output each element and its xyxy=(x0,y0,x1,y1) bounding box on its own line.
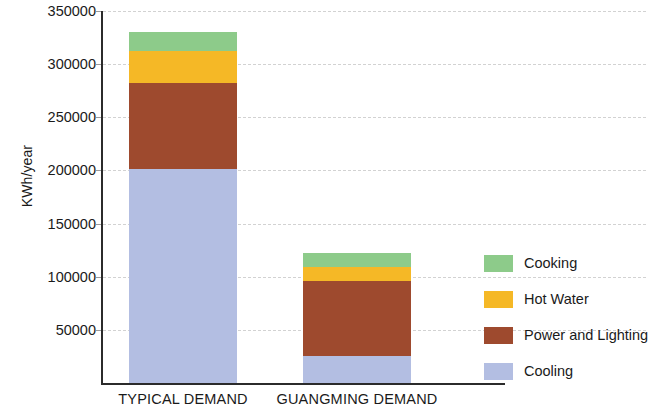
y-axis-tick-label: 50000 xyxy=(10,322,96,338)
x-axis-tick-label: TYPICAL DEMAND xyxy=(83,391,283,407)
y-axis-tick-mark xyxy=(96,170,101,171)
bar-segment[interactable] xyxy=(129,32,237,51)
legend-label: Cooking xyxy=(524,255,577,271)
legend-swatch-icon xyxy=(484,327,513,344)
legend-swatch-icon xyxy=(484,291,513,308)
legend-item[interactable]: Power and Lighting xyxy=(484,320,646,350)
legend-swatch-icon xyxy=(484,363,513,380)
legend-swatch-icon xyxy=(484,255,513,272)
legend-label: Power and Lighting xyxy=(524,327,648,343)
y-axis-tick-label: 300000 xyxy=(10,56,96,72)
x-axis-tick-label: GUANGMING DEMAND xyxy=(257,391,457,407)
legend-item[interactable]: Cooling xyxy=(484,356,646,386)
y-axis-tick-mark xyxy=(96,277,101,278)
bar-segment[interactable] xyxy=(303,253,411,267)
bar-segment[interactable] xyxy=(129,51,237,83)
bar-group[interactable] xyxy=(129,32,237,383)
y-axis-tick-mark xyxy=(96,224,101,225)
legend-label: Hot Water xyxy=(524,291,589,307)
legend-item[interactable]: Cooking xyxy=(484,248,646,278)
y-axis-tick-mark xyxy=(96,330,101,331)
y-axis-tick-label: 350000 xyxy=(10,3,96,19)
y-axis-tick-label: 250000 xyxy=(10,109,96,125)
chart-legend: CookingHot WaterPower and LightingCoolin… xyxy=(484,248,646,392)
y-axis-tick-mark xyxy=(96,117,101,118)
y-axis-tick-labels: 3500003000002500002000001500001000005000… xyxy=(8,11,96,385)
legend-item[interactable]: Hot Water xyxy=(484,284,646,314)
y-axis-tick-mark xyxy=(96,11,101,12)
gridline xyxy=(103,11,646,12)
bar-segment[interactable] xyxy=(303,281,411,356)
bar-segment[interactable] xyxy=(303,267,411,281)
bar-group[interactable] xyxy=(303,253,411,383)
y-axis-tick-label: 200000 xyxy=(10,162,96,178)
bar-segment[interactable] xyxy=(129,83,237,169)
bar-segment[interactable] xyxy=(129,169,237,383)
bar-segment[interactable] xyxy=(303,356,411,383)
y-axis-tick-mark xyxy=(96,64,101,65)
y-axis-tick-label: 150000 xyxy=(10,216,96,232)
legend-label: Cooling xyxy=(524,363,573,379)
x-axis-line xyxy=(101,383,505,385)
y-axis-tick-label: 100000 xyxy=(10,269,96,285)
